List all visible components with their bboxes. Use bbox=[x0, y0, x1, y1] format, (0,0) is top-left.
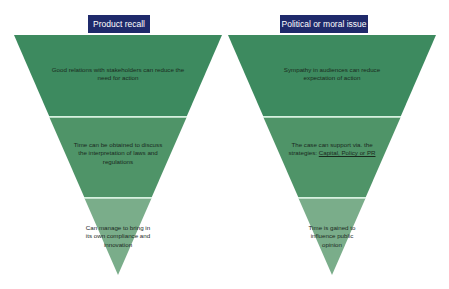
tier-text-product-recall-bottom: Can manage to bring in its own complianc… bbox=[82, 224, 154, 249]
tier-text-product-recall-top: Good relations with stakeholders can red… bbox=[45, 66, 191, 83]
tier-text-political-bottom: Time is gained to influence public opini… bbox=[300, 224, 364, 249]
tier-text-product-recall-middle: Time can be obtained to discuss the inte… bbox=[72, 141, 164, 166]
funnel-title-product-recall: Product recall bbox=[88, 15, 150, 33]
tier-text-political-middle: The case can support via. the strategies… bbox=[285, 141, 379, 158]
funnel-diagram bbox=[0, 0, 449, 289]
strategies-link[interactable]: Capital, Policy or PR bbox=[319, 149, 376, 156]
tier-text-political-top: Sympathy in audiences can reduce expecta… bbox=[270, 66, 394, 83]
funnel-title-political-moral-issue: Political or moral issue bbox=[280, 15, 368, 33]
